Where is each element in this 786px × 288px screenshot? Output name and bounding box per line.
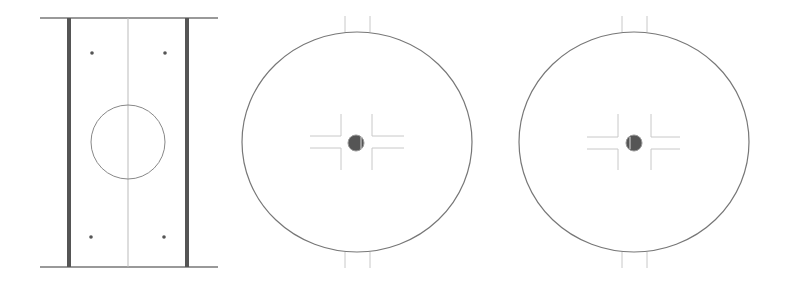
pivot-icon (348, 135, 364, 151)
front-view-2 (519, 16, 749, 268)
mount-dot-bottom-left (89, 235, 93, 239)
side-view (40, 18, 218, 267)
left-rail (67, 18, 71, 267)
drawing-canvas (0, 0, 786, 288)
pivot-icon (626, 135, 642, 151)
mount-dot-bottom-right (162, 235, 166, 239)
mount-dot-top-right (163, 51, 167, 55)
front-view-1 (242, 16, 472, 268)
right-rail (185, 18, 189, 267)
mount-dot-top-left (90, 51, 94, 55)
